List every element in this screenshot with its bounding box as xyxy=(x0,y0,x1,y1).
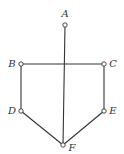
edge-e-f xyxy=(63,111,104,145)
node-a xyxy=(63,23,67,27)
node-d xyxy=(19,109,23,113)
node-label-e: E xyxy=(108,105,117,116)
edges xyxy=(21,25,104,145)
labels: ABCDEF xyxy=(7,8,117,153)
node-label-f: F xyxy=(68,142,77,153)
node-label-a: A xyxy=(60,8,68,19)
node-f xyxy=(61,143,65,147)
node-label-c: C xyxy=(109,58,117,69)
node-label-d: D xyxy=(7,105,16,116)
node-e xyxy=(102,109,106,113)
node-b xyxy=(19,62,23,66)
nodes xyxy=(19,23,106,147)
node-c xyxy=(102,62,106,66)
graph-diagram: ABCDEF xyxy=(0,0,124,154)
edge-a-f xyxy=(63,25,65,145)
node-label-b: B xyxy=(7,58,15,69)
edge-d-f xyxy=(21,111,63,145)
